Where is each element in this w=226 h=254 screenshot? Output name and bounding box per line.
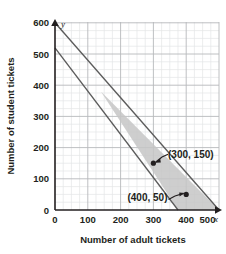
y-axis-variable: y [60,19,65,29]
data-point-300-150 [151,161,156,166]
x-tick-200: 200 [113,214,129,225]
point-label-300-150: (300, 150) [168,149,214,160]
chart-svg: y x 600 500 400 300 200 100 0 0 100 200 … [0,0,226,254]
y-tick-400: 400 [33,80,49,91]
x-axis-title: Number of adult tickets [80,234,186,245]
y-tick-200: 200 [33,142,49,153]
y-tick-0: 0 [44,205,49,216]
data-point-400-50 [184,192,189,197]
y-tick-100: 100 [33,173,49,184]
y-tick-500: 500 [33,49,49,60]
y-tick-600: 600 [33,17,49,28]
y-axis-title: Number of student tickets [5,57,16,174]
coordinate-plane-figure: y x 600 500 400 300 200 100 0 0 100 200 … [0,0,226,254]
x-tick-0: 0 [52,214,57,225]
x-tick-500: 500 [200,214,216,225]
x-tick-100: 100 [80,214,96,225]
x-tick-400: 400 [178,214,194,225]
x-tick-300: 300 [145,214,161,225]
point-label-400-50: (400, 50) [127,192,167,203]
y-tick-300: 300 [33,111,49,122]
